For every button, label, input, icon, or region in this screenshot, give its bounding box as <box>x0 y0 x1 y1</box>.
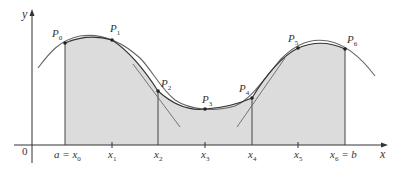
label-p3: P3 <box>201 93 213 108</box>
point-p3 <box>203 107 207 111</box>
simpsons-rule-diagram: y x 0 P0 P1 P2 P3 P4 P5 P6 a = x0 x1 x2 … <box>0 0 405 171</box>
label-p5: P5 <box>287 32 299 47</box>
origin-label: 0 <box>22 145 28 157</box>
point-p6 <box>343 47 347 51</box>
label-p4: P4 <box>238 82 250 97</box>
tick-label-x3: x3 <box>200 148 210 163</box>
point-p1 <box>110 38 114 42</box>
label-p2: P2 <box>160 77 172 92</box>
tick-label-x0: a = x0 <box>54 148 81 163</box>
label-p0: P0 <box>51 27 63 42</box>
point-p0 <box>63 41 67 45</box>
tick-label-x5: x5 <box>293 148 303 163</box>
y-axis-arrow-icon <box>30 9 35 16</box>
tick-label-x1: x1 <box>107 148 117 163</box>
y-axis-label: y <box>21 7 28 21</box>
tick-label-x2: x2 <box>153 148 163 163</box>
tick-label-x4: x4 <box>247 148 257 163</box>
label-p1: P1 <box>109 22 121 37</box>
point-p4 <box>250 96 254 100</box>
label-p6: P6 <box>346 33 358 48</box>
x-axis-label: x <box>379 147 386 161</box>
shaded-area <box>65 37 345 145</box>
point-p2 <box>156 89 160 93</box>
tick-label-x6: x6 = b <box>329 148 357 163</box>
